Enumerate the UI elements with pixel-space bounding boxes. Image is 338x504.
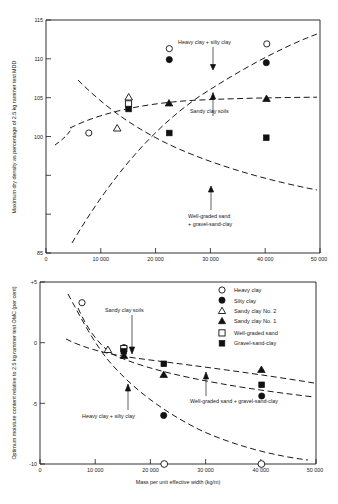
top-x-tick-20000: 20 000 (147, 256, 164, 262)
figure-container: 85 100 105 110 115 0 10 000 20 000 30 00… (0, 0, 338, 504)
data-point-sandy-clay-2 (113, 125, 121, 132)
data-point-heavy-clay (166, 46, 172, 52)
legend-marker-silty-clay (219, 297, 225, 303)
legend-label-heavy-clay: Heavy clay (234, 287, 262, 293)
data-point-silty-clay (259, 393, 265, 399)
legend-marker-well-graded-sand (219, 330, 225, 336)
top-annotation-sandy-clay-soils: Sandy clay soils (190, 108, 229, 114)
data-point-silty-clay (161, 412, 167, 418)
legend-marker-sandy-clay-1 (218, 317, 225, 323)
bottom-y-tick-labels: +5 0 -5 -10 (29, 279, 37, 467)
data-point-silty-clay (263, 60, 269, 66)
bottom-curve-well-graded-sand-gravel (78, 308, 314, 397)
top-x-tick-0: 0 (45, 256, 48, 262)
bottom-x-tick-30000: 30 000 (197, 467, 214, 473)
top-x-tick-30000: 30 000 (202, 256, 219, 262)
data-point-heavy-clay (86, 130, 92, 136)
bottom-x-tick-labels: 0 10 000 20 000 30 000 40 000 50 000 (39, 467, 324, 473)
data-point-gravel-sand-clay (264, 135, 270, 141)
data-point-heavy-clay (79, 300, 85, 306)
top-x-tick-50000: 50 000 (311, 256, 328, 262)
top-x-tick-10000: 10 000 (93, 256, 110, 262)
top-annotation-heavy-clay-group: Heavy clay + silty clay (178, 39, 231, 70)
top-curve-well-graded-sand (78, 80, 317, 190)
top-y-axis-title: Maximum dry density as percentage of 2.5… (11, 61, 17, 214)
top-y-tick-110: 110 (34, 56, 43, 62)
data-point-heavy-clay (161, 461, 168, 468)
bottom-chart-svg: +5 0 -5 -10 0 10 000 20 000 30 000 40 00… (0, 268, 338, 504)
chart-panel-top: 85 100 105 110 115 0 10 000 20 000 30 00… (0, 0, 338, 268)
legend-marker-heavy-clay (219, 287, 225, 293)
top-curve-heavy-clay-silty-clay (72, 34, 317, 243)
top-annotation-well-graded-sand-line1: Well-graded sand (188, 213, 230, 219)
bottom-y-ticks (40, 282, 45, 464)
data-point-heavy-clay (264, 41, 270, 47)
bottom-x-axis-title: Mass per unit effective width (kg/m) (136, 479, 221, 485)
data-point-gravel-sand-clay (259, 382, 265, 388)
bottom-data-markers (79, 300, 265, 468)
top-trend-curves (55, 34, 317, 243)
data-point-silty-clay (166, 57, 172, 63)
bottom-annotation-wgs-group: Well-graded sand + gravel-sand-clay (190, 372, 278, 404)
bottom-annotation-heavy-clay-silty-clay: Heavy clay + silty clay (82, 413, 135, 419)
bottom-annotation-heavy-group: Heavy clay + silty clay (82, 384, 135, 419)
bottom-y-tick-plus5: +5 (31, 279, 37, 285)
legend: Heavy clay Silty clay Sandy clay No. 2 S… (212, 282, 316, 346)
bottom-y-tick-minus5: -5 (32, 401, 37, 407)
legend-label-sandy-clay-2: Sandy clay No. 2 (234, 308, 276, 314)
legend-marker-gravel-sand-clay (219, 341, 225, 347)
top-annotation-well-graded-sand-line2: + gravel-sand-clay (188, 221, 232, 227)
bottom-x-tick-0: 0 (39, 467, 42, 473)
bottom-x-tick-20000: 20 000 (142, 467, 159, 473)
bottom-x-tick-50000: 50 000 (307, 467, 324, 473)
data-point-gravel-sand-clay (161, 361, 167, 367)
bottom-trend-curves (66, 294, 314, 460)
top-data-markers (86, 41, 271, 141)
legend-marker-sandy-clay-2 (218, 307, 225, 313)
top-annotation-sandy-group: Sandy clay soils (190, 92, 229, 116)
data-point-heavy-clay (258, 461, 265, 468)
top-chart-svg: 85 100 105 110 115 0 10 000 20 000 30 00… (0, 0, 338, 268)
legend-label-sandy-clay-1: Sandy clay No. 1 (234, 318, 276, 324)
bottom-annotation-sandy-clay-soils: Sandy clay soils (105, 307, 144, 313)
top-curve-stub-left (55, 128, 72, 145)
legend-label-silty-clay: Silty clay (234, 298, 256, 304)
legend-label-gravel-sand-clay: Gravel-sand-clay (234, 340, 276, 346)
bottom-x-tick-10000: 10 000 (87, 467, 104, 473)
top-y-tick-115: 115 (34, 17, 43, 23)
data-point-sandy-clay-1 (258, 366, 266, 373)
top-x-ticks (46, 248, 320, 253)
chart-panel-bottom: +5 0 -5 -10 0 10 000 20 000 30 000 40 00… (0, 268, 338, 504)
bottom-y-tick-0: 0 (34, 340, 37, 346)
data-point-gravel-sand-clay (167, 130, 173, 136)
top-y-tick-105: 105 (34, 95, 43, 101)
top-annotation-heavy-clay-silty-clay: Heavy clay + silty clay (178, 39, 231, 45)
data-point-sandy-clay-2 (125, 94, 133, 101)
top-y-tick-85: 85 (37, 250, 43, 256)
bottom-x-tick-40000: 40 000 (253, 467, 270, 473)
bottom-y-tick-minus10: -10 (29, 461, 37, 467)
top-y-ticks (46, 20, 51, 253)
bottom-curve-sandy-clay-soils (66, 339, 314, 383)
data-point-sandy-clay-2 (104, 346, 112, 353)
data-point-gravel-sand-clay (126, 106, 132, 112)
top-y-tick-labels: 85 100 105 110 115 (34, 17, 43, 256)
top-x-tick-labels: 0 10 000 20 000 30 000 40 000 50 000 (45, 256, 328, 262)
top-annotation-wgs-group: Well-graded sand + gravel-sand-clay (188, 186, 232, 227)
top-x-tick-40000: 40 000 (257, 256, 274, 262)
bottom-x-ticks (40, 459, 316, 464)
legend-label-well-graded-sand: Well-graded sand (234, 330, 278, 336)
top-y-tick-100: 100 (34, 134, 43, 140)
bottom-y-axis-title: Optimum moisture content relative to 2.5… (11, 286, 17, 459)
bottom-annotation-well-graded-sand-gravel: Well-graded sand + gravel-sand-clay (190, 398, 278, 404)
